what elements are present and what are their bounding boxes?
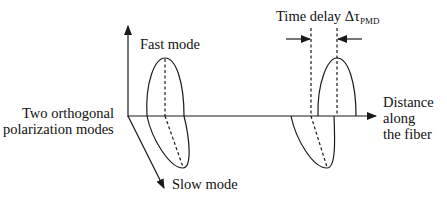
- time-delay-text: Time delay Δτ: [276, 8, 360, 24]
- fast-mode-label: Fast mode: [140, 36, 200, 52]
- slow-axis: [128, 116, 164, 188]
- distance-label-1: Distance: [383, 94, 434, 110]
- pmd-diagram: [0, 0, 447, 200]
- slow-mode-label: Slow mode: [172, 176, 238, 192]
- output-slow-pulse: [291, 116, 335, 168]
- distance-label-2: along: [383, 110, 415, 126]
- distance-label-3: the fiber: [383, 126, 432, 142]
- two-modes-label-1: Two orthogonal: [22, 105, 114, 121]
- output-slow-peak-dash: [311, 116, 327, 167]
- time-delay-label: Time delay ΔτPMD: [276, 8, 379, 29]
- two-modes-label-2: polarization modes: [3, 121, 114, 137]
- time-delay-subscript: PMD: [360, 16, 380, 26]
